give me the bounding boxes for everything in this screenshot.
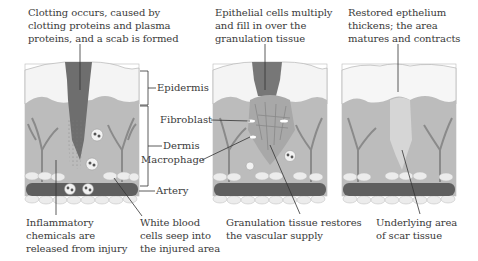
label-dermis: Dermis <box>163 140 200 152</box>
caption-scar-tissue: Underlying area of scar tissue <box>376 216 457 242</box>
caption-inflammatory-chemicals: Inflammatory chemicals are released from… <box>26 216 127 255</box>
caption-granulation-tissue: Granulation tissue restores the vascular… <box>226 216 362 242</box>
caption-white-blood-cells: White blood cells seep into the injured … <box>140 216 220 255</box>
label-epidermis: Epidermis <box>157 82 209 94</box>
panel-1-skin-block <box>25 44 162 216</box>
panel-2-skin-block <box>202 44 327 214</box>
caption-clotting: Clotting occurs, caused by clotting prot… <box>28 6 178 45</box>
label-fibroblast: Fibroblast <box>160 114 212 126</box>
label-artery: Artery <box>156 185 188 197</box>
label-macrophage: Macrophage <box>141 154 205 166</box>
panel-3-skin-block <box>342 44 456 214</box>
artery <box>26 183 138 196</box>
caption-epithelial-cells: Epithelial cells multiply and fill in ov… <box>215 6 332 45</box>
caption-restored-epithelium: Restored epthelium thickens; the area ma… <box>348 6 460 45</box>
